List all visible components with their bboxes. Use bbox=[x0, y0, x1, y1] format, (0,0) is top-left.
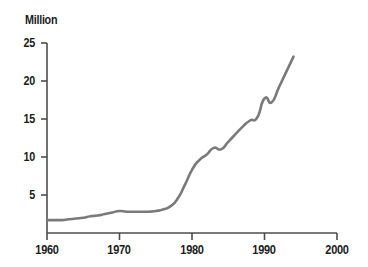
x-axis-tick-marks bbox=[47, 233, 337, 240]
plot-area bbox=[0, 0, 368, 267]
x-axis bbox=[47, 233, 337, 240]
y-axis-tick-marks bbox=[41, 43, 47, 195]
data-series-line bbox=[47, 57, 294, 221]
y-axis bbox=[41, 43, 47, 233]
line-chart: Million 25 20 15 10 5 1960 1970 1980 199… bbox=[0, 0, 368, 267]
